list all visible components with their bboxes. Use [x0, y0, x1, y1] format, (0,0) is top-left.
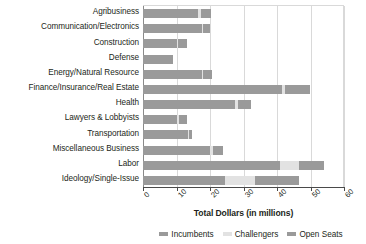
- bar-row: [143, 85, 310, 94]
- bar-segment-incumbents: [143, 130, 188, 139]
- category-label: Construction: [0, 39, 139, 47]
- legend-label: Open Seats: [299, 230, 342, 239]
- bar-segment-open-seats: [179, 115, 187, 124]
- category-label: Energy/Natural Resource: [0, 69, 139, 77]
- category-label: Health: [0, 99, 139, 107]
- legend-item-incumbents[interactable]: Incumbents: [159, 230, 213, 239]
- category-label: Transportation: [0, 130, 139, 138]
- bar-row: [143, 130, 192, 139]
- legend-label: Incumbents: [171, 230, 213, 239]
- chart-legend: IncumbentsChallengersOpen Seats: [143, 228, 359, 240]
- bar-segment-incumbents: [143, 100, 235, 109]
- bar-row: [143, 146, 223, 155]
- bar-segment-incumbents: [143, 146, 210, 155]
- gridline: [344, 6, 345, 187]
- category-label: Ideology/Single-Issue: [0, 175, 139, 183]
- bar-row: [143, 115, 187, 124]
- bar-segment-incumbents: [143, 70, 202, 79]
- legend-swatch-icon: [223, 232, 232, 236]
- bar-segment-challengers: [225, 176, 255, 185]
- x-axis-tick-label: 0: [142, 190, 151, 199]
- bar-segment-incumbents: [143, 176, 225, 185]
- category-label: Labor: [0, 160, 139, 168]
- bar-row: [143, 70, 212, 79]
- bar-segment-open-seats: [213, 146, 223, 155]
- bar-segment-open-seats: [178, 39, 187, 48]
- bar-segment-open-seats: [285, 85, 310, 94]
- bar-segment-open-seats: [203, 24, 210, 33]
- category-label: Miscellaneous Business: [0, 145, 139, 153]
- legend-item-challengers[interactable]: Challengers: [223, 230, 279, 239]
- bar-segment-incumbents: [143, 55, 173, 64]
- bar-segment-open-seats: [189, 130, 192, 139]
- bar-segment-incumbents: [143, 115, 177, 124]
- bar-row: [143, 100, 251, 109]
- category-label: Agribusiness: [0, 8, 139, 16]
- bar-row: [143, 39, 187, 48]
- category-label: Defense: [0, 54, 139, 62]
- category-label: Finance/Insurance/Real Estate: [0, 84, 139, 92]
- category-label: Lawyers & Lobbyists: [0, 114, 139, 122]
- plot-area: [143, 5, 344, 187]
- x-axis-title: Total Dollars (in millions): [143, 208, 344, 218]
- legend-swatch-icon: [159, 232, 168, 236]
- bar-row: [143, 176, 299, 185]
- bar-row: [143, 24, 210, 33]
- legend-item-open-seats[interactable]: Open Seats: [287, 230, 342, 239]
- legend-swatch-icon: [287, 232, 296, 236]
- legend-label: Challengers: [235, 230, 279, 239]
- bar-segment-open-seats: [203, 70, 211, 79]
- bar-row: [143, 9, 211, 18]
- bar-segment-incumbents: [143, 24, 202, 33]
- bar-chart: AgribusinessCommunication/ElectronicsCon…: [0, 0, 366, 244]
- bar-segment-incumbents: [143, 9, 198, 18]
- bar-segment-open-seats: [255, 176, 299, 185]
- category-label: Communication/Electronics: [0, 23, 139, 31]
- bar-segment-open-seats: [299, 161, 324, 170]
- bar-segment-incumbents: [143, 161, 280, 170]
- bar-row: [143, 55, 173, 64]
- category-axis-labels: AgribusinessCommunication/ElectronicsCon…: [0, 5, 139, 187]
- bar-segment-challengers: [280, 161, 298, 170]
- bar-row: [143, 161, 324, 170]
- bar-segment-incumbents: [143, 85, 282, 94]
- bar-segment-open-seats: [201, 9, 211, 18]
- bar-segment-incumbents: [143, 39, 177, 48]
- bar-segment-open-seats: [238, 100, 251, 109]
